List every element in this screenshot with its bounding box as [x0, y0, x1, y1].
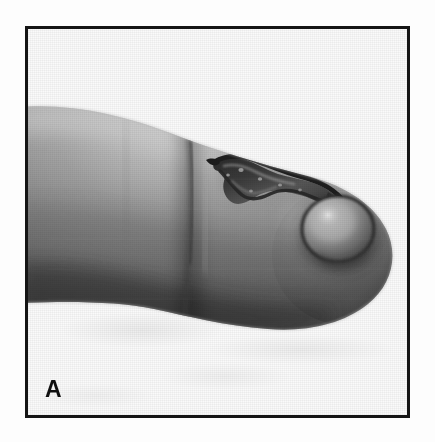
panel-label: A [45, 378, 62, 401]
photo-frame: A [25, 26, 410, 418]
clinical-photograph [28, 29, 407, 415]
crease-edge-highlight [204, 133, 207, 269]
proximal-crease-hint [124, 121, 127, 241]
finger-illustration [28, 29, 407, 415]
vesicle-highlight [316, 204, 340, 226]
knuckle-crease [170, 101, 210, 341]
finger-body [28, 89, 407, 349]
figure-root: A [0, 0, 435, 442]
